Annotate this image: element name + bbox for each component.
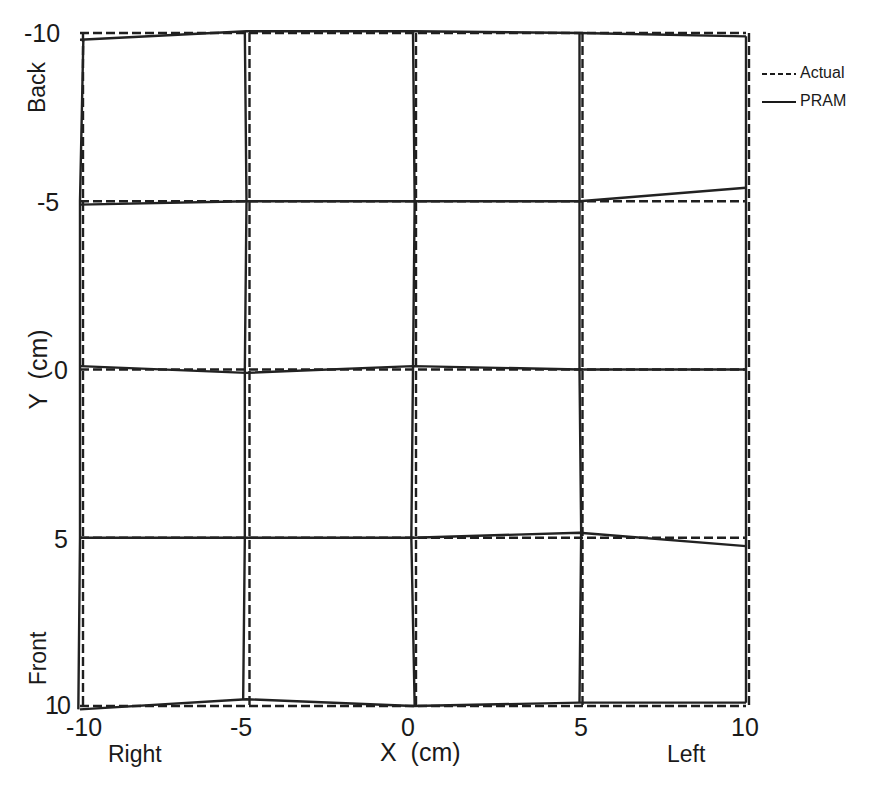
chart-plot-area xyxy=(0,0,874,786)
pram-column-line xyxy=(411,31,414,706)
pram-row-line xyxy=(80,699,746,709)
y-tick-label-5: 5 xyxy=(54,527,68,552)
pram-column-line xyxy=(243,31,246,699)
x-axis-title: X (cm) xyxy=(380,740,461,765)
x-tick-label-neg5: -5 xyxy=(230,715,252,740)
pram-row-line xyxy=(80,533,746,546)
y-axis-side-label-back: Back xyxy=(26,58,49,118)
legend-label-pram: PRAM xyxy=(800,92,846,110)
y-tick-label-0: 0 xyxy=(54,358,68,383)
x-axis-side-label-right: Right xyxy=(108,743,162,766)
y-tick-label-neg5: -5 xyxy=(37,190,59,215)
x-tick-label-0: 0 xyxy=(401,715,415,740)
legend-label-actual: Actual xyxy=(800,64,844,82)
x-tick-label-10: 10 xyxy=(731,715,759,740)
y-tick-label-neg10: -10 xyxy=(24,21,60,46)
x-axis-side-label-left: Left xyxy=(667,743,705,766)
x-tick-label-neg10: -10 xyxy=(66,715,102,740)
pram-column-line xyxy=(580,33,582,703)
x-tick-label-5: 5 xyxy=(574,715,588,740)
y-axis-side-label-front: Front xyxy=(27,621,50,697)
y-axis-title: Y (cm) xyxy=(26,320,51,420)
legend: Actual PRAM xyxy=(760,62,870,122)
legend-swatches xyxy=(760,62,800,112)
